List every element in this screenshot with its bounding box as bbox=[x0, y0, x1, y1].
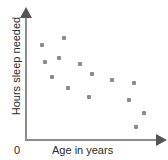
data-point bbox=[90, 72, 94, 76]
data-point bbox=[134, 125, 138, 129]
data-point bbox=[66, 86, 70, 90]
data-point bbox=[57, 56, 61, 60]
data-point bbox=[62, 36, 66, 40]
data-point bbox=[87, 95, 91, 99]
data-point bbox=[78, 62, 82, 66]
data-point bbox=[142, 111, 146, 115]
data-point bbox=[50, 75, 54, 79]
data-point bbox=[110, 78, 114, 82]
data-point bbox=[43, 60, 47, 64]
data-point bbox=[127, 98, 131, 102]
data-point bbox=[132, 81, 136, 85]
plot-area bbox=[0, 0, 168, 160]
data-point bbox=[40, 43, 44, 47]
scatter-plot-figure: Hours sleep needed Age in years 0 bbox=[0, 0, 168, 160]
